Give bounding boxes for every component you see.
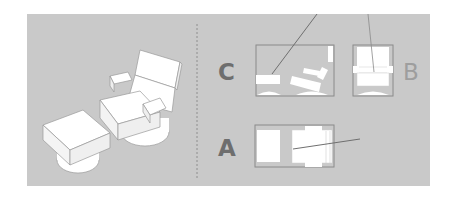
- view-label-a: A: [218, 137, 236, 160]
- chair-3d-illustration: [100, 50, 182, 146]
- view-b-front: [353, 14, 393, 96]
- view-label-b: B: [403, 61, 419, 84]
- view-c-side: [256, 14, 334, 96]
- ottoman-3d-illustration: [43, 110, 110, 173]
- diagram-canvas: [0, 0, 454, 201]
- view-a-top: [255, 125, 360, 167]
- view-label-c: C: [218, 61, 235, 84]
